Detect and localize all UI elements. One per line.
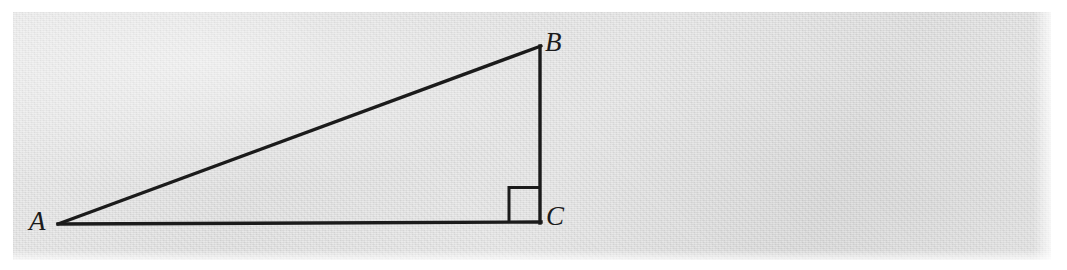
right-triangle-figure [0, 0, 1067, 270]
right-angle-marker-icon [509, 188, 540, 223]
vertex-label-a: A [29, 208, 46, 235]
vertex-label-b: B [545, 29, 562, 56]
segment-ab [58, 46, 541, 224]
figure-root: A B C [0, 0, 1067, 270]
vertex-label-c: C [546, 203, 564, 230]
segment-ac [58, 222, 541, 224]
